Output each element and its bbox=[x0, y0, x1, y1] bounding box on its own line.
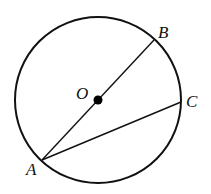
diagram-canvas: O A B C bbox=[0, 0, 211, 194]
label-b: B bbox=[158, 23, 169, 42]
label-a: A bbox=[25, 160, 37, 179]
label-o: O bbox=[76, 84, 88, 103]
segment-ac bbox=[42, 102, 181, 160]
label-c: C bbox=[186, 92, 198, 111]
center-point-o bbox=[94, 96, 103, 105]
geometry-diagram: O A B C bbox=[0, 0, 211, 194]
